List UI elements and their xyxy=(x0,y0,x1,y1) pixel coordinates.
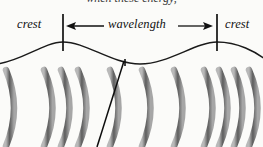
wavelength-arrow-left xyxy=(66,22,104,30)
wavefront-arc xyxy=(174,70,183,146)
wavefront-arc xyxy=(61,70,70,146)
wave-profile-curve xyxy=(0,42,263,64)
wavefront-arc xyxy=(204,70,213,146)
wavefront-arc xyxy=(6,70,14,146)
wavefront-arc xyxy=(142,70,151,146)
wavefront-arcs xyxy=(6,70,258,146)
wavelength-label: wavelength xyxy=(108,17,166,32)
wavefront-arc xyxy=(234,70,243,146)
wave-diagram-figure: when these energy, xyxy=(0,0,263,147)
wavelength-arrow-right xyxy=(178,22,213,30)
wavefront-arc xyxy=(249,70,258,146)
crest-right-label: crest xyxy=(225,17,249,32)
wavefront-arc xyxy=(78,70,87,146)
crest-left-label: crest xyxy=(17,17,41,32)
wavefront-arc xyxy=(219,70,228,146)
wavefront-arc xyxy=(44,70,53,146)
